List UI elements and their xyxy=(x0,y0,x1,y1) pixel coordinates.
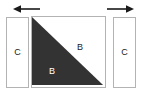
shaded-triangle-icon xyxy=(32,17,105,87)
diagram-canvas: C B B C xyxy=(0,0,147,97)
right-arrow-icon xyxy=(107,5,134,13)
triangle-region-label: B xyxy=(49,67,55,76)
upper-region-label: B xyxy=(77,43,83,52)
right-panel: C xyxy=(113,17,136,88)
right-panel-label: C xyxy=(121,48,128,57)
left-arrow-icon xyxy=(13,5,40,13)
left-panel-label: C xyxy=(14,48,21,57)
left-panel: C xyxy=(6,17,29,88)
center-square: B B xyxy=(31,16,106,88)
